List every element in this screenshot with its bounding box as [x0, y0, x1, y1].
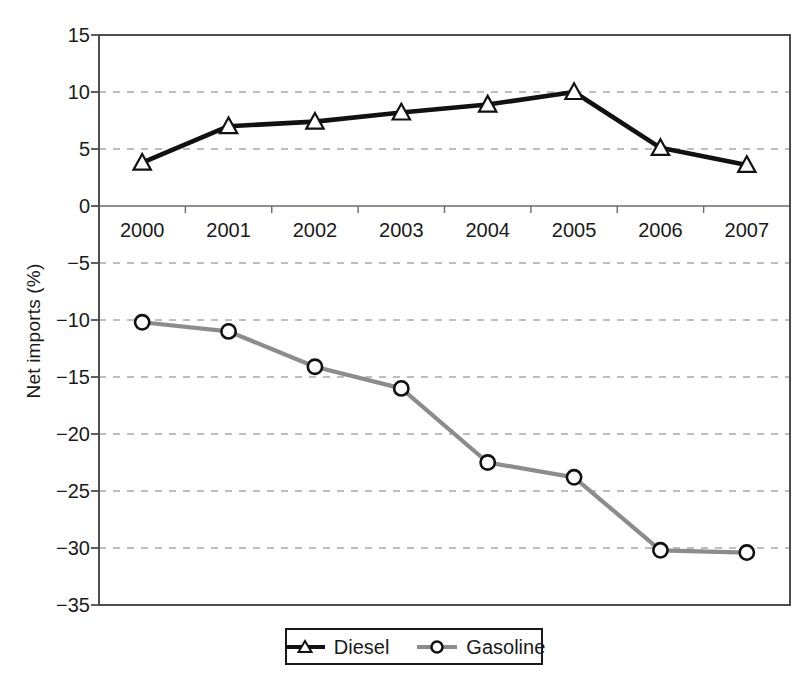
data-point-marker: [481, 455, 495, 469]
data-point-marker: [221, 324, 235, 338]
legend-label-diesel: Diesel: [334, 637, 390, 657]
data-point-marker: [653, 543, 667, 557]
series-gasoline: [135, 315, 754, 560]
gridlines: [99, 92, 790, 548]
data-point-marker: [567, 470, 581, 484]
legend-marker-triangle-icon: [283, 637, 327, 657]
net-imports-line-chart: Net imports (%) 151050−5−10−15−20−25−30−…: [0, 0, 811, 682]
y-axis-ticks: [91, 35, 99, 605]
legend-item-gasoline: Gasoline: [415, 637, 545, 657]
legend-item-diesel: Diesel: [283, 637, 390, 657]
legend: Diesel Gasoline: [285, 628, 543, 665]
legend-label-gasoline: Gasoline: [466, 637, 545, 657]
x-axis-ticks: [99, 206, 790, 213]
plot-area: [0, 0, 811, 682]
data-point-marker: [394, 381, 408, 395]
data-point-marker: [135, 315, 149, 329]
legend-marker-circle-icon: [415, 637, 459, 657]
data-point-marker: [740, 545, 754, 559]
series-diesel: [134, 83, 756, 172]
data-point-marker: [308, 360, 322, 374]
